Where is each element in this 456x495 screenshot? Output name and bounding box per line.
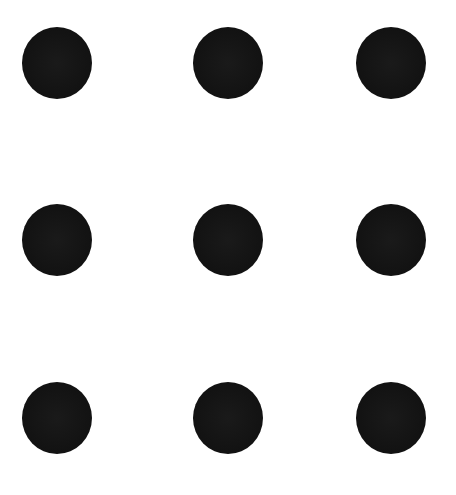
dot-r2-c2: [356, 382, 426, 454]
nine-dot-grid: [0, 0, 456, 495]
dot-r1-c1: [193, 204, 263, 276]
dot-r0-c1: [193, 27, 263, 99]
dot-r2-c0: [22, 382, 92, 454]
dot-r1-c0: [22, 204, 92, 276]
dot-r1-c2: [356, 204, 426, 276]
dot-r0-c2: [356, 27, 426, 99]
dot-r2-c1: [193, 382, 263, 454]
dot-r0-c0: [22, 27, 92, 99]
